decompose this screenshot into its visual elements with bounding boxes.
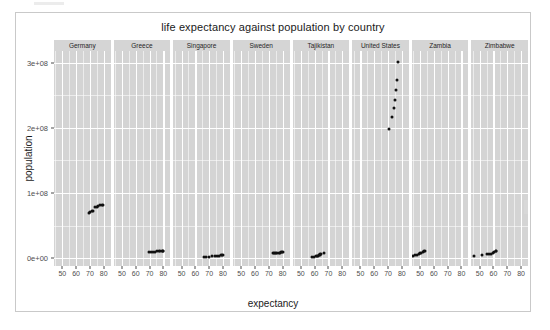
- x-tick-mark: [374, 266, 375, 269]
- gridline-major-x: [223, 51, 224, 266]
- facet-panel-zimbabwe: Zimbabwe50607080: [471, 40, 528, 282]
- x-tick-label: 70: [146, 270, 154, 277]
- x-tick-label: 80: [279, 270, 287, 277]
- x-tick-mark: [209, 266, 210, 269]
- facet-panel-sweden: Sweden50607080: [233, 40, 290, 282]
- gridline-major-x: [90, 51, 91, 266]
- x-tick-label: 60: [430, 270, 438, 277]
- data-point: [390, 116, 393, 119]
- y-tick-label: 0e+00: [27, 254, 48, 263]
- gridline-minor-x: [335, 51, 336, 266]
- gridline-major-x: [342, 51, 343, 266]
- gridline-minor-x: [441, 51, 442, 266]
- x-tick-mark: [521, 266, 522, 269]
- gridline-minor-x: [97, 51, 98, 266]
- gridline-major-x: [493, 51, 494, 266]
- data-point: [394, 98, 397, 101]
- x-tick-label: 60: [251, 270, 259, 277]
- x-tick-label: 70: [325, 270, 333, 277]
- gridline-major-x: [182, 51, 183, 266]
- gridline-major-x: [328, 51, 329, 266]
- gridline-major-x: [76, 51, 77, 266]
- facet-plot-area: [471, 51, 528, 266]
- gridline-minor-x: [487, 51, 488, 266]
- x-tick-mark: [328, 266, 329, 269]
- x-tick-label: 80: [458, 270, 466, 277]
- gridline-major-x: [104, 51, 105, 266]
- gridline-minor-x: [367, 51, 368, 266]
- chart-canvas: life expectancy against population by co…: [16, 13, 530, 311]
- gridline-major-x: [241, 51, 242, 266]
- gridline-major-x: [283, 51, 284, 266]
- x-tick-label: 60: [490, 270, 498, 277]
- gridline-minor-x: [115, 51, 116, 266]
- gridline-minor-x: [381, 51, 382, 266]
- gridline-minor-x: [427, 51, 428, 266]
- y-tick-label: 1e+08: [27, 189, 48, 198]
- x-tick-label: 80: [398, 270, 406, 277]
- x-tick-label: 70: [384, 270, 392, 277]
- data-point: [92, 209, 95, 212]
- x-tick-label: 80: [159, 270, 167, 277]
- gridline-minor-x: [322, 51, 323, 266]
- x-tick-label: 70: [503, 270, 511, 277]
- x-tick-label: 60: [311, 270, 319, 277]
- x-tick-mark: [103, 266, 104, 269]
- data-point: [162, 249, 165, 252]
- facet-panel-singapore: Singapore50607080: [173, 40, 230, 282]
- x-tick-mark: [282, 266, 283, 269]
- facet-strip-label: United States: [352, 40, 409, 51]
- data-point: [221, 254, 224, 257]
- x-tick-mark: [181, 266, 182, 269]
- x-tick-label: 80: [338, 270, 346, 277]
- x-tick-mark: [222, 266, 223, 269]
- facet-panel-united-states: United States50607080: [352, 40, 409, 282]
- x-tick-label: 80: [100, 270, 108, 277]
- x-tick-mark: [342, 266, 343, 269]
- x-tick-label: 60: [132, 270, 140, 277]
- facet-strip-label: Zimbabwe: [471, 40, 528, 51]
- x-tick-mark: [163, 266, 164, 269]
- gridline-major-x: [420, 51, 421, 266]
- x-axis: 50607080: [233, 266, 290, 282]
- gridline-minor-x: [143, 51, 144, 266]
- gridline-major-x: [521, 51, 522, 266]
- x-axis: 50607080: [471, 266, 528, 282]
- facet-plot-area: [233, 51, 290, 266]
- facet-row: Germany50607080Greece50607080Singapore50…: [54, 40, 528, 282]
- x-tick-mark: [135, 266, 136, 269]
- gridline-minor-x: [248, 51, 249, 266]
- data-point: [322, 252, 325, 255]
- gridline-major-x: [480, 51, 481, 266]
- gridline-minor-x: [234, 51, 235, 266]
- x-axis: 50607080: [54, 266, 111, 282]
- scan-artifact-top: [34, 2, 64, 5]
- gridline-major-x: [195, 51, 196, 266]
- x-tick-mark: [268, 266, 269, 269]
- facet-strip-label: Sweden: [233, 40, 290, 51]
- data-point: [282, 251, 285, 254]
- x-tick-mark: [401, 266, 402, 269]
- gridline-minor-x: [455, 51, 456, 266]
- gridline-minor-x: [500, 51, 501, 266]
- x-tick-label: 70: [444, 270, 452, 277]
- facet-strip-label: Zambia: [412, 40, 469, 51]
- x-tick-mark: [447, 266, 448, 269]
- gridline-major-x: [209, 51, 210, 266]
- facet-panel-greece: Greece50607080: [114, 40, 171, 282]
- gridline-major-x: [374, 51, 375, 266]
- x-tick-label: 60: [191, 270, 199, 277]
- gridline-minor-x: [413, 51, 414, 266]
- gridline-minor-x: [354, 51, 355, 266]
- gridline-minor-x: [276, 51, 277, 266]
- x-tick-label: 50: [297, 270, 305, 277]
- x-tick-label: 70: [86, 270, 94, 277]
- facet-strip-label: Tajikistan: [293, 40, 350, 51]
- x-tick-mark: [241, 266, 242, 269]
- y-tick-label: 2e+08: [27, 123, 48, 132]
- x-tick-mark: [360, 266, 361, 269]
- x-axis-label: expectancy: [16, 298, 530, 309]
- data-point: [473, 254, 476, 257]
- gridline-major-x: [255, 51, 256, 266]
- gridline-minor-x: [83, 51, 84, 266]
